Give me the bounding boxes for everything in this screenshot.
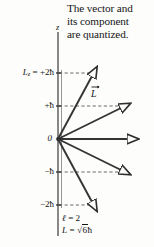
vector-arrow-accent-icon <box>91 84 100 89</box>
caption-line-2: its component <box>67 15 153 28</box>
tick-unit-hbar: ħ <box>50 100 55 110</box>
footnote-magnitude: L = √6ħ <box>62 225 92 235</box>
origin-point <box>56 137 60 141</box>
footnote-l-value: 2 <box>76 213 81 223</box>
caption-line-1: The vector and <box>67 2 153 15</box>
tick-label-plus-1hbar: +ħ <box>0 100 54 110</box>
tick-label-minus-1hbar: −ħ <box>0 166 54 176</box>
tick-label-zero: 0 <box>0 133 52 143</box>
tick-value-plus2: +2 <box>40 67 50 77</box>
vector-ml-minus2 <box>58 139 92 202</box>
vector-L-label: L <box>91 88 97 99</box>
footnote-L-unit: ħ <box>88 225 93 235</box>
tick-value-minus2: −2 <box>40 199 50 209</box>
tick-unit-hbar: ħ <box>50 67 55 77</box>
tick-label-minus-2hbar: −2ħ <box>0 199 54 209</box>
tick-value-zero: 0 <box>48 133 53 143</box>
tick-unit-hbar: ħ <box>50 166 55 176</box>
tick-unit-hbar: ħ <box>50 199 55 209</box>
z-axis-label: z <box>56 22 59 32</box>
vector-ml-plus1 <box>58 108 121 139</box>
vector-ml-minus1 <box>58 139 121 170</box>
vector-L-text: L <box>91 88 97 99</box>
vector-ml-plus2 <box>58 76 92 139</box>
footnote-l-equals: = <box>66 213 76 223</box>
caption-line-3: are quantized. <box>67 28 153 41</box>
figure-caption: The vector and its component are quantiz… <box>67 2 153 42</box>
footnote-quantum-number: ℓ = 2 <box>62 213 80 223</box>
footnote-L-equals: = <box>67 225 77 235</box>
tick-label-plus-2hbar: Lz = +2ħ <box>0 67 54 77</box>
angular-momentum-quantization-figure: The vector and its component are quantiz… <box>0 0 154 247</box>
tick-equals: = <box>30 67 40 77</box>
